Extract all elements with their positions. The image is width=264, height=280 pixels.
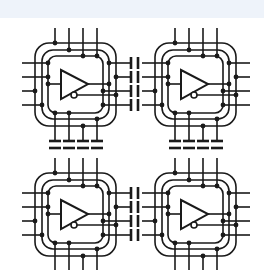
horizontal-capacitors-bottom (131, 187, 138, 241)
cell-bottom-right (142, 158, 250, 270)
vertical-capacitors-left (49, 141, 103, 148)
horizontal-capacitors-top (131, 57, 138, 111)
cell-top-left (22, 28, 130, 140)
vertical-capacitors-right (169, 141, 223, 148)
cell-bottom-left (22, 158, 130, 270)
cell-array-diagram (0, 0, 264, 280)
cell-top-right (142, 28, 250, 140)
